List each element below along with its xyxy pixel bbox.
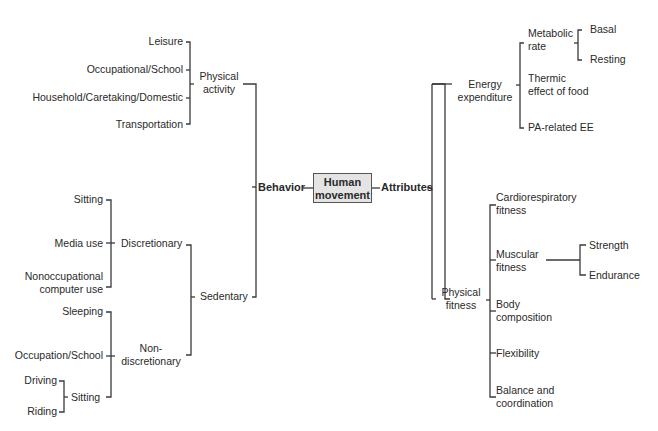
flexibility: Flexibility [496, 347, 539, 360]
physical-activity-line2: activity [194, 83, 244, 96]
energy-expenditure-label: Energy expenditure [455, 78, 515, 104]
pa-leisure: Leisure [60, 35, 183, 48]
energy-expenditure-line2: expenditure [455, 91, 515, 104]
physical-fitness-label: Physical fitness [436, 286, 486, 312]
cardiorespiratory-fitness: Cardiorespiratory fitness [496, 191, 577, 217]
pa-transportation: Transportation [60, 118, 183, 131]
body-composition: Body composition [496, 298, 552, 324]
muscular-line2: fitness [496, 261, 539, 274]
nondiscretionary-label: Non- discretionary [118, 342, 184, 368]
physical-fitness-line1: Physical [436, 286, 486, 299]
pa-household: Household/Caretaking/Domestic [20, 91, 183, 104]
metabolic-rate-line2: rate [528, 40, 573, 53]
body-line2: composition [496, 311, 552, 324]
cardio-line1: Cardiorespiratory [496, 191, 577, 204]
muscular-endurance: Endurance [589, 269, 640, 282]
energy-expenditure-line1: Energy [455, 78, 515, 91]
thermic-line1: Thermic [528, 72, 589, 85]
metabolic-resting: Resting [590, 53, 626, 66]
body-line1: Body [496, 298, 552, 311]
muscular-strength: Strength [589, 239, 629, 252]
root-node-human-movement: Human movement [313, 173, 372, 203]
nondiscretionary-line1: Non- [118, 342, 184, 355]
muscular-fitness: Muscular fitness [496, 248, 539, 274]
balance-line2: coordination [496, 397, 554, 410]
thermic-line2: effect of food [528, 85, 589, 98]
root-label-line2: movement [314, 189, 371, 202]
physical-activity-line1: Physical [194, 70, 244, 83]
discretionary-label: Discretionary [121, 237, 182, 250]
metabolic-rate-label: Metabolic rate [528, 27, 573, 53]
nondisc-sitting-label: Sitting [71, 391, 100, 404]
sedentary-label: Sedentary [200, 290, 248, 303]
cardio-line2: fitness [496, 204, 577, 217]
disc-noncomputer-line1: Nonoccupational [10, 270, 103, 283]
balance-line1: Balance and [496, 384, 554, 397]
sitting-riding: Riding [5, 405, 57, 418]
behavior-label: Behavior [258, 181, 304, 194]
thermic-effect-label: Thermic effect of food [528, 72, 589, 98]
disc-sitting: Sitting [20, 193, 103, 206]
disc-noncomputer-line2: computer use [10, 283, 103, 296]
physical-activity-label: Physical activity [194, 70, 244, 96]
disc-media-use: Media use [20, 237, 103, 250]
nondisc-sleeping: Sleeping [20, 305, 103, 318]
muscular-line1: Muscular [496, 248, 539, 261]
pa-related-ee: PA-related EE [528, 121, 594, 134]
attributes-label: Attributes [381, 181, 433, 194]
nondiscretionary-line2: discretionary [118, 355, 184, 368]
metabolic-basal: Basal [590, 23, 616, 36]
human-movement-diagram: Human movement Behavior Leisure Occupati… [0, 0, 658, 431]
physical-fitness-line2: fitness [436, 299, 486, 312]
pa-occupational-school: Occupational/School [40, 63, 183, 76]
nondisc-occupation-school: Occupation/School [5, 349, 103, 362]
root-label-line1: Human [314, 176, 371, 189]
sitting-driving: Driving [5, 374, 57, 387]
balance-coordination: Balance and coordination [496, 384, 554, 410]
metabolic-rate-line1: Metabolic [528, 27, 573, 40]
